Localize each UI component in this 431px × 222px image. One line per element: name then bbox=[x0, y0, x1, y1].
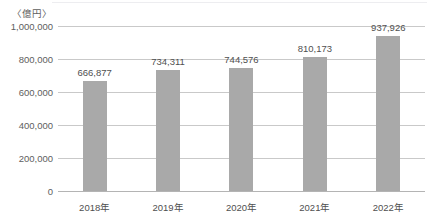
x-tick-label-2019: 2019年 bbox=[153, 200, 184, 214]
bar-value-label-2020: 744,576 bbox=[224, 54, 258, 65]
bar-2022[interactable] bbox=[376, 36, 400, 191]
bar-group: 666,877 2018年 734,311 2019年 744,576 2020… bbox=[58, 26, 425, 191]
y-tick-label-1000000: 1,000,000 bbox=[11, 21, 53, 32]
bar-slot-2019: 734,311 2019年 bbox=[131, 26, 204, 191]
y-tick-label-200000: 200,000 bbox=[19, 153, 53, 164]
y-tick-label-600000: 600,000 bbox=[19, 87, 53, 98]
bar-value-label-2019: 734,311 bbox=[151, 56, 185, 67]
y-tick-label-400000: 400,000 bbox=[19, 120, 53, 131]
y-tick-label-0: 0 bbox=[48, 186, 53, 197]
bar-2020[interactable] bbox=[229, 68, 253, 191]
gridline-zero-baseline: 0 bbox=[58, 191, 425, 192]
bar-value-label-2021: 810,173 bbox=[298, 43, 332, 54]
plot-area: 1,000,000 800,000 600,000 400,000 200,00… bbox=[58, 26, 425, 191]
x-tick-label-2018: 2018年 bbox=[79, 200, 110, 214]
bar-value-label-2018: 666,877 bbox=[78, 67, 112, 78]
bar-2018[interactable] bbox=[83, 81, 107, 191]
bar-value-label-2022: 937,926 bbox=[371, 22, 405, 33]
bar-slot-2018: 666,877 2018年 bbox=[58, 26, 131, 191]
x-tick-label-2022: 2022年 bbox=[373, 200, 404, 214]
bar-slot-2021: 810,173 2021年 bbox=[278, 26, 351, 191]
x-tick-label-2020: 2020年 bbox=[226, 200, 257, 214]
y-tick-label-800000: 800,000 bbox=[19, 54, 53, 65]
bar-chart: 〈億円〉 1,000,000 800,000 600,000 400,000 2… bbox=[0, 0, 431, 222]
bar-slot-2020: 744,576 2020年 bbox=[205, 26, 278, 191]
bar-2021[interactable] bbox=[303, 57, 327, 191]
x-tick-label-2021: 2021年 bbox=[299, 200, 330, 214]
bar-2019[interactable] bbox=[156, 70, 180, 191]
figure-top-rule bbox=[52, 2, 427, 3]
bar-slot-2022: 937,926 2022年 bbox=[352, 26, 425, 191]
y-axis-unit-label: 〈億円〉 bbox=[12, 6, 52, 20]
